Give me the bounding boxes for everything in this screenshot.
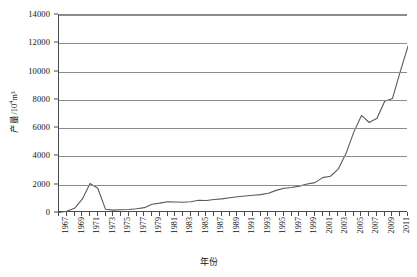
x-axis-tick-mark: [291, 212, 292, 216]
gridlines: [59, 15, 407, 211]
x-axis-tick-mark: [105, 212, 106, 216]
gridline: [59, 156, 407, 157]
x-axis-tick-mark: [391, 212, 392, 216]
y-axis-tick-label: 2000: [33, 179, 50, 189]
x-axis-tick-label: 1985: [201, 217, 210, 233]
x-axis-tick-mark: [345, 212, 346, 216]
x-axis-tick-label: 2005: [356, 217, 365, 233]
x-axis-tick-label: 2001: [325, 217, 334, 233]
x-axis-tick-mark: [275, 212, 276, 216]
x-axis-tick-label: 1975: [123, 217, 132, 233]
x-axis-tick-mark: [159, 212, 160, 216]
y-axis-exponent: 4: [8, 101, 14, 104]
y-axis-tick-label: 8000: [33, 94, 50, 104]
x-axis-tick-label: 1971: [92, 217, 101, 233]
x-axis-tick-label: 1983: [185, 217, 194, 233]
y-axis-tick-label: 0: [46, 207, 50, 217]
x-axis-tick-mark: [213, 212, 214, 216]
x-axis-tick-mark: [376, 212, 377, 216]
x-axis-tick-label: 1987: [216, 217, 225, 233]
x-axis-tick-label: 1979: [154, 217, 163, 233]
x-axis-tick-mark: [384, 212, 385, 216]
y-axis-tick-label: 4000: [33, 150, 50, 160]
x-axis-tick-label: 1995: [278, 217, 287, 233]
y-axis-tick-label: 12000: [28, 37, 50, 47]
x-axis-tick-mark: [198, 212, 199, 216]
x-axis-tick-mark: [337, 212, 338, 216]
gridline: [59, 43, 407, 44]
gridline: [59, 185, 407, 186]
x-axis-tick-label: 1999: [309, 217, 318, 233]
x-axis-tick-mark: [143, 212, 144, 216]
x-axis-tick-mark: [97, 212, 98, 216]
plot-area: [58, 14, 407, 212]
x-axis-tick-label: 1973: [108, 217, 117, 233]
gridline: [59, 15, 407, 16]
x-axis-tick-mark: [182, 212, 183, 216]
x-axis-tick-mark: [399, 212, 400, 216]
gridline: [59, 128, 407, 129]
x-axis-tick-mark: [58, 212, 59, 216]
x-axis-tick-mark: [221, 212, 222, 216]
x-axis-tick-label: 1981: [170, 217, 179, 233]
gridline: [59, 72, 407, 73]
y-axis-title: 产量/104m³: [7, 73, 19, 151]
x-axis-tick-mark: [298, 212, 299, 216]
x-axis-tick-mark: [66, 212, 67, 216]
x-axis-tick-mark: [229, 212, 230, 216]
x-axis-tick-mark: [89, 212, 90, 216]
y-axis-tick-label: 6000: [33, 122, 50, 132]
x-axis-tick-mark: [136, 212, 137, 216]
x-axis-tick-mark: [407, 212, 408, 216]
chart-figure: 02000400060008000100001200014000 产量/104m…: [0, 0, 417, 277]
x-axis-tick-mark: [306, 212, 307, 216]
x-axis-labels: 1967196919711973197519771979198119831985…: [58, 217, 407, 251]
x-axis-tick-mark: [244, 212, 245, 216]
x-axis-tick-mark: [112, 212, 113, 216]
x-axis-tick-label: 1967: [61, 217, 70, 233]
x-axis-tick-mark: [120, 212, 121, 216]
x-axis-tick-mark: [353, 212, 354, 216]
x-axis-tick-label: 2011: [402, 217, 411, 233]
x-axis-title: 年份: [0, 255, 417, 268]
x-axis-tick-mark: [283, 212, 284, 216]
x-axis-tick-mark: [329, 212, 330, 216]
x-axis-tick-mark: [260, 212, 261, 216]
x-axis-tick-label: 1977: [139, 217, 148, 233]
x-axis-tick-mark: [360, 212, 361, 216]
x-axis-tick-mark: [190, 212, 191, 216]
x-axis-tick-mark: [151, 212, 152, 216]
x-axis-tick-label: 1991: [247, 217, 256, 233]
x-axis-tick-label: 2007: [371, 217, 380, 233]
x-axis-tick-mark: [322, 212, 323, 216]
x-axis-tick-label: 1993: [263, 217, 272, 233]
x-axis-tick-mark: [174, 212, 175, 216]
x-axis-tick-mark: [167, 212, 168, 216]
x-axis-tick-label: 1997: [294, 217, 303, 233]
x-axis-tick-mark: [267, 212, 268, 216]
y-axis-tick-label: 14000: [28, 9, 50, 19]
x-axis-tick-label: 2009: [387, 217, 396, 233]
y-axis-tick-label: 10000: [28, 66, 50, 76]
x-axis-tick-mark: [368, 212, 369, 216]
x-axis-tick-mark: [314, 212, 315, 216]
x-axis-tick-label: 2003: [340, 217, 349, 233]
x-axis-tick-label: 1969: [77, 217, 86, 233]
x-axis-tick-mark: [236, 212, 237, 216]
x-axis-tick-mark: [74, 212, 75, 216]
gridline: [59, 100, 407, 101]
x-axis-tick-label: 1989: [232, 217, 241, 233]
x-axis-tick-mark: [128, 212, 129, 216]
x-axis-tick-mark: [252, 212, 253, 216]
x-axis-tick-mark: [205, 212, 206, 216]
x-axis-tick-mark: [81, 212, 82, 216]
